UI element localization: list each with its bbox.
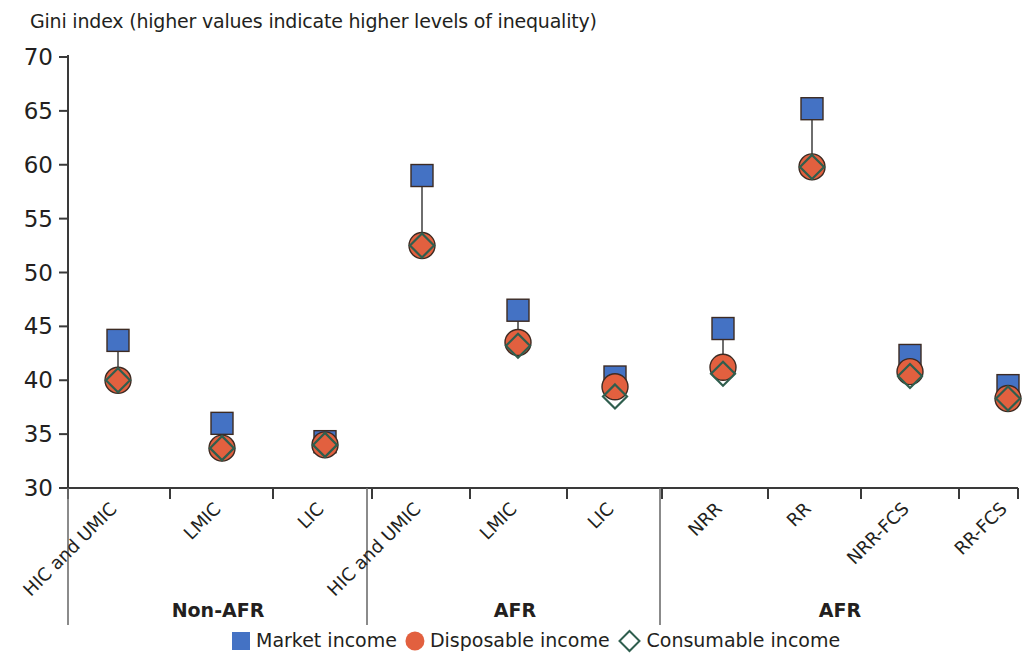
marker-disposable-income[interactable] [409,233,435,259]
x-tick-label: LMIC [179,498,225,544]
data-points [105,98,1021,461]
marker-market-income[interactable] [107,329,129,351]
marker-market-income[interactable] [801,98,823,120]
group-label: Non-AFR [172,599,265,621]
marker-disposable-income[interactable] [799,154,825,180]
marker-market-income[interactable] [411,165,433,187]
x-tick-label: HIC and UMIC [19,498,121,600]
y-tick-label: 45 [24,313,53,339]
legend-label: Disposable income [430,629,610,651]
legend-marker-square-icon [232,632,250,650]
legend-label: Market income [256,629,397,651]
chart-container: Gini index (higher values indicate highe… [0,0,1026,653]
legend-marker-diamond-icon [620,631,640,651]
group-label: AFR [819,599,862,621]
x-tick-label: RR-FCS [950,498,1011,559]
marker-disposable-income[interactable] [602,374,628,400]
legend-marker-circle-icon [405,632,424,651]
marker-market-income[interactable] [712,318,734,340]
y-tick-label: 70 [24,44,53,70]
marker-market-income[interactable] [507,299,529,321]
marker-disposable-income[interactable] [209,435,235,461]
y-tick-label: 35 [24,421,53,447]
group-labels: Non-AFRAFRAFR [172,599,862,621]
y-tick-label: 50 [24,260,53,286]
legend-label: Consumable income [647,629,841,651]
x-tick-label: LIC [583,498,618,533]
x-tick-label: LIC [293,498,328,533]
marker-disposable-income[interactable] [995,386,1021,412]
marker-disposable-income[interactable] [312,432,338,458]
x-tick-labels: HIC and UMICLMICLICHIC and UMICLMICLICNR… [19,498,1011,600]
y-tick-label: 60 [24,152,53,178]
x-tick-label: NRR [684,498,726,540]
x-axis [68,488,1018,499]
x-tick-label: NRR-FCS [842,498,912,568]
y-tick-label: 55 [24,206,53,232]
marker-disposable-income[interactable] [105,367,131,393]
y-tick-label: 65 [24,98,53,124]
y-tick-label: 30 [24,475,53,501]
x-tick-label: LMIC [475,498,521,544]
y-axis: 706560555045403530 [24,44,68,501]
y-tick-label: 40 [24,367,53,393]
chart-legend: Market incomeDisposable incomeConsumable… [232,629,840,652]
x-tick-label: HIC and UMIC [323,498,425,600]
chart-plot-area: 706560555045403530 HIC and UMICLMICLICHI… [0,0,1026,653]
marker-market-income[interactable] [211,412,233,434]
x-tick-label: RR [782,498,815,531]
group-label: AFR [494,599,537,621]
